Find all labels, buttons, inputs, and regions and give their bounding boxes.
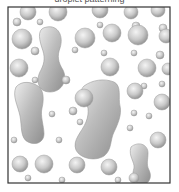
droplet — [146, 113, 152, 119]
droplet — [59, 177, 65, 183]
droplet — [10, 59, 28, 77]
droplet — [13, 18, 21, 26]
droplet — [103, 24, 121, 42]
droplet — [151, 3, 165, 17]
droplet — [128, 25, 148, 45]
droplet — [69, 157, 85, 173]
droplet — [77, 119, 83, 125]
droplet — [131, 50, 137, 56]
droplet — [115, 177, 121, 183]
droplet — [56, 137, 62, 143]
droplet — [32, 77, 38, 83]
droplet — [138, 59, 156, 77]
droplet — [127, 83, 143, 99]
droplet — [69, 107, 77, 115]
droplet — [92, 2, 108, 18]
droplet — [159, 81, 165, 87]
droplet — [150, 132, 166, 148]
droplet — [31, 47, 39, 55]
droplet — [11, 137, 17, 143]
droplet — [101, 58, 119, 76]
droplet — [49, 111, 55, 117]
droplet — [159, 29, 173, 43]
droplet — [72, 47, 78, 53]
droplet — [35, 155, 53, 173]
droplet — [129, 173, 139, 183]
droplet — [75, 28, 95, 48]
droplet — [127, 125, 133, 131]
droplet — [154, 94, 170, 110]
droplet-canvas — [0, 0, 179, 192]
droplet — [37, 19, 43, 25]
droplet — [101, 50, 107, 56]
droplet — [25, 175, 31, 181]
droplet — [162, 63, 174, 75]
droplet — [12, 29, 32, 49]
droplet — [101, 159, 117, 175]
droplet — [75, 89, 93, 107]
droplet — [97, 22, 103, 28]
droplet — [49, 3, 67, 21]
droplet — [131, 110, 137, 116]
droplet — [62, 76, 70, 84]
droplet — [12, 156, 28, 172]
droplet — [156, 51, 164, 59]
